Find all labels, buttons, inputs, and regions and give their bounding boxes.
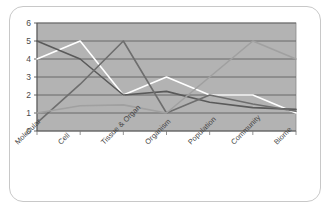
- x-tick-label: Community: [229, 113, 262, 146]
- line-chart: 0123456 MolecularCellTissue & OrganOrgan…: [0, 0, 334, 213]
- x-tick-label: Organism: [143, 117, 173, 147]
- x-tick-label: Tissue & Organ: [99, 103, 142, 146]
- x-axis-labels: MolecularCellTissue & OrganOrganismPopul…: [0, 0, 334, 213]
- x-tick-label: Cell: [56, 131, 72, 147]
- x-tick-label: Biome: [272, 125, 294, 147]
- x-tick-label: Molecular: [13, 117, 43, 147]
- x-tick-label: Population: [186, 115, 218, 147]
